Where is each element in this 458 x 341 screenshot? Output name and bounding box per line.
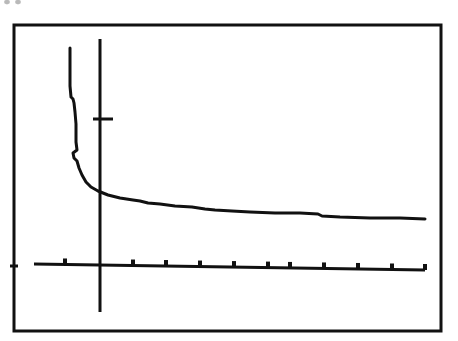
x-axis-tick	[266, 262, 270, 268]
x-axis-tick	[63, 258, 67, 264]
decay-curve	[70, 48, 425, 219]
x-axis-tick	[423, 264, 427, 270]
plot-frame	[14, 25, 441, 331]
plot-canvas	[0, 0, 458, 341]
x-axis-tick	[131, 260, 135, 266]
x-axis-tick	[390, 263, 394, 269]
x-axis-tick	[322, 262, 326, 268]
x-axis-tick	[198, 261, 202, 267]
figure-root	[0, 0, 458, 341]
x-axis-tick	[356, 263, 360, 269]
x-axis-tick	[164, 260, 168, 266]
x-axis	[34, 264, 425, 270]
x-axis-tick	[232, 261, 236, 267]
x-axis-tick	[288, 262, 292, 268]
